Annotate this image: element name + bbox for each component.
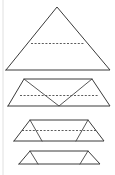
stage-1-triangle <box>6 7 110 70</box>
stage-4-left-crease <box>30 151 38 164</box>
stage-4-right-crease <box>80 151 88 164</box>
stage-1-outline <box>6 7 110 70</box>
stage-4-flat <box>19 151 100 164</box>
stage-2-partial-fold <box>8 79 110 106</box>
stage-3-further-fold <box>14 120 104 141</box>
stage-2-zigzag-crease <box>24 79 92 106</box>
stage-2-outline <box>8 79 110 106</box>
triangle-folding-diagram <box>0 0 115 175</box>
